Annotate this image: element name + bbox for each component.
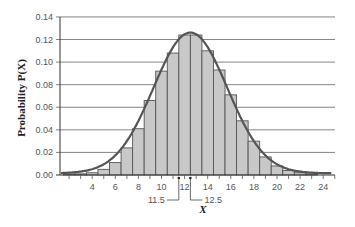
y-tick-label: 0.02: [35, 147, 53, 157]
y-tick-label: 0.12: [35, 35, 53, 45]
x-tick-label: 6: [113, 182, 118, 192]
histogram-bar: [202, 51, 214, 175]
histogram-bar: [213, 70, 225, 175]
x-tick-label: 22: [295, 182, 305, 192]
probability-histogram-chart: 0.000.020.040.060.080.100.120.14 4681012…: [0, 0, 355, 227]
annotation-label-12-5: 12.5: [204, 195, 222, 205]
x-tick-label: 10: [156, 182, 166, 192]
x-tick-label: 20: [272, 182, 282, 192]
y-tick-label: 0.06: [35, 102, 53, 112]
histogram-bar: [110, 163, 122, 175]
x-tick-label: 4: [90, 182, 95, 192]
histogram-bar: [179, 35, 191, 175]
y-tick-label: 0.14: [35, 12, 53, 22]
x-tick-label: 8: [136, 182, 141, 192]
y-tick-label: 0.00: [35, 170, 53, 180]
histogram-bar: [156, 71, 168, 175]
histogram-bar: [190, 35, 202, 175]
y-tick-label: 0.04: [35, 125, 53, 135]
histogram-bar: [133, 129, 145, 175]
x-tick-labels: 4681012141618202224: [90, 182, 329, 192]
histogram-bar: [144, 100, 156, 175]
x-tick-label: 14: [203, 182, 213, 192]
marker-dot: [178, 177, 181, 180]
annotation-label-11-5: 11.5: [148, 195, 165, 205]
histogram-bar: [167, 53, 179, 175]
y-tick-label: 0.10: [35, 57, 53, 67]
x-tick-label: 24: [318, 182, 328, 192]
y-axis-title: Probability P(X): [15, 59, 28, 137]
histogram-bar: [121, 148, 133, 175]
marker-dot: [189, 177, 192, 180]
histogram-bars: [63, 35, 317, 175]
histogram-bar: [98, 169, 110, 175]
x-tick-label: 12: [180, 182, 190, 192]
annotation-leader-12-5: [190, 179, 202, 200]
x-axis-title: X: [198, 203, 207, 215]
y-tick-label: 0.08: [35, 80, 53, 90]
x-tick-label: 18: [249, 182, 259, 192]
y-tick-labels: 0.000.020.040.060.080.100.120.14: [35, 12, 53, 180]
x-tick-label: 16: [226, 182, 236, 192]
annotation-leader-11-5: [167, 179, 179, 200]
